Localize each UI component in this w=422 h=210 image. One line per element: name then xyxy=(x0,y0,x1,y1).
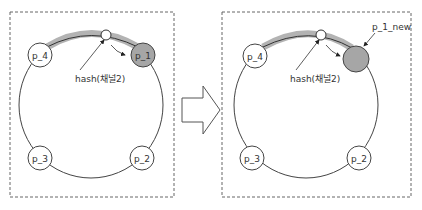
callout-arrow xyxy=(364,33,375,46)
node-p_1: p_1 xyxy=(131,43,155,67)
before-panel: p_4 p_1 p_3 p_2 hash(채널2) xyxy=(10,12,174,197)
node-p_4: p_4 xyxy=(243,44,267,68)
mapping-arrow xyxy=(326,45,340,56)
new-node-label: p_1_new xyxy=(372,22,411,32)
consistent-hashing-diagram: p_4 p_1 p_3 p_2 hash(채널2) p_4 xyxy=(0,0,422,210)
node-p_3: p_3 xyxy=(28,146,52,170)
hash-point xyxy=(101,30,111,40)
hash-label: hash(채널2) xyxy=(75,74,125,84)
mapping-arrow xyxy=(111,45,125,55)
node-label: p_3 xyxy=(244,154,260,164)
node-p_1_new xyxy=(343,46,369,72)
hash-label: hash(채널2) xyxy=(290,74,340,84)
node-label: p_3 xyxy=(32,154,48,164)
node-label: p_4 xyxy=(32,51,48,61)
node-p_4: p_4 xyxy=(28,43,52,67)
node-label: p_2 xyxy=(351,154,367,164)
node-label: p_1 xyxy=(135,51,151,61)
node-label: p_4 xyxy=(247,52,263,62)
hash-pointer-arrow xyxy=(80,40,104,70)
hash-point xyxy=(316,30,326,40)
node-p_2: p_2 xyxy=(130,146,154,170)
node-label: p_2 xyxy=(134,154,150,164)
right-arrow-icon xyxy=(182,86,220,134)
hash-pointer-arrow xyxy=(296,40,319,70)
after-panel: p_4 p_3 p_2 p_1_new hash(채널2) xyxy=(222,12,411,197)
node-p_3: p_3 xyxy=(240,146,264,170)
node-p_2: p_2 xyxy=(347,146,371,170)
